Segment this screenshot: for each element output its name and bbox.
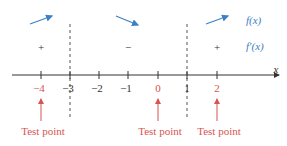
tick-label-0: 0	[155, 82, 161, 94]
decreasing-arrow-middle	[116, 16, 138, 25]
tick-label-neg3: −3	[62, 82, 74, 94]
tick-label-neg4: −4	[33, 82, 45, 94]
tick-label-neg2: −2	[91, 82, 103, 94]
sign-interval-3: +	[214, 41, 220, 53]
test-point-label-2: Test point	[197, 125, 241, 137]
sign-interval-1: +	[38, 41, 44, 53]
sign-interval-2: −	[125, 41, 131, 53]
increasing-arrow-right	[206, 16, 228, 24]
tick-label-neg1: −1	[120, 82, 132, 94]
x-axis-label: x	[273, 63, 279, 75]
tick-label-2: 2	[214, 82, 220, 94]
legend-function: f(x)	[246, 14, 262, 27]
test-point-label-neg4: Test point	[21, 125, 65, 137]
test-point-label-0: Test point	[138, 125, 182, 137]
legend-derivative: f′(x)	[246, 40, 264, 53]
increasing-arrow-left	[30, 16, 52, 24]
tick-label-1: 1	[184, 82, 190, 94]
sign-chart-diagram: f(x) f′(x) + − + x −4 −3 −2 −1 0 1 2 Tes…	[0, 0, 287, 146]
